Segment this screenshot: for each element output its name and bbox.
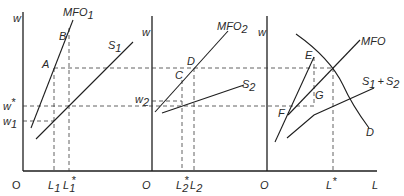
panel-1-origin-label: O [12,179,21,191]
S2-label: S2 [242,78,255,93]
L-star-tick-label: L* [326,175,337,191]
MFO1-curve [31,20,73,128]
MFO-curve [288,40,360,115]
demand-curve-label: D [366,126,374,138]
w1-label: w1 [3,115,17,130]
point-G-label: G [315,89,324,101]
point-A-label: A [41,58,49,70]
MFO1-label: MFO1 [63,6,94,21]
S1-curve [36,42,133,139]
panel-3-curves [275,34,374,142]
MFO2-curve [155,31,228,112]
panel-3-origin-label: O [260,179,269,191]
S1-plus-S2-label: S1+S2 [362,75,399,90]
MFO2-label: MFO2 [217,20,248,35]
point-F-label: F [278,107,286,119]
point-E-label: E [305,49,313,61]
S2-curve [162,85,244,113]
panel-2-w-label: w [142,26,151,38]
panel-3-w-label: w [258,26,267,38]
point-B-label: B [59,30,66,42]
point-C-label: C [175,69,183,81]
axes [23,12,377,171]
w-star-label: w* [3,96,16,112]
MFO-steep-segment [275,57,314,142]
point-D-label: D [187,55,195,67]
panel-1-w-label: w [13,12,22,24]
S1-label: S1 [108,39,121,54]
L2-star-tick-label: L2* [176,174,189,194]
L2-tick-label: L2 [190,179,202,194]
L1-tick-label: L1 [48,179,60,194]
monopsony-diagram: w MFO1 B A S1 w* w1 O L1 L1* w MFO2 D C … [0,0,404,196]
guide-lines [23,28,333,171]
MFO-label: MFO [361,35,386,47]
L1-star-tick-label: L1* [63,174,76,194]
x-axis-L-label: L [372,179,378,191]
S1-plus-S2-curve [287,88,374,138]
panel-2-origin-label: O [142,179,151,191]
